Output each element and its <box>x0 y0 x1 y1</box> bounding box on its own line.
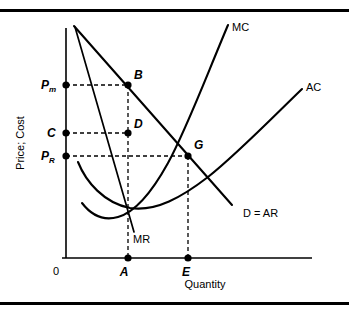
curve-label-demand: D = AR <box>243 207 278 219</box>
y-tick-label-pr: PR <box>41 149 55 165</box>
y-tick-label-c: C <box>47 126 56 140</box>
average-cost-curve <box>78 89 302 209</box>
demand-average-revenue-line <box>74 26 232 205</box>
tick-dot-pr <box>62 152 69 159</box>
y-tick-label-pm: Pm <box>41 78 56 94</box>
figure-container: B D G Pm C PR A E 0 MC AC D = AR MR Pric… <box>0 0 349 309</box>
tick-dot-c <box>62 129 69 136</box>
tick-dot-a <box>124 254 131 261</box>
x-tick-label-a: A <box>119 265 129 279</box>
point-label-d: D <box>134 117 143 131</box>
y-tick-label-c-base: C <box>47 126 56 140</box>
origin-label: 0 <box>53 265 59 277</box>
tick-dot-e <box>184 254 191 261</box>
x-axis-title: Quantity <box>185 278 226 290</box>
y-tick-label-pr-sub: R <box>49 156 55 165</box>
curve-label-mr: MR <box>133 233 150 245</box>
curve-label-ac: AC <box>306 81 321 93</box>
point-dot-b <box>124 81 131 88</box>
y-tick-label-pm-sub: m <box>49 85 56 94</box>
point-label-b: B <box>134 68 143 82</box>
economics-diagram-svg: B D G Pm C PR A E 0 MC AC D = AR MR Pric… <box>0 0 349 309</box>
tick-dot-pm <box>62 81 69 88</box>
marginal-cost-curve <box>82 25 228 218</box>
point-dot-d <box>124 129 131 136</box>
y-axis-title: Price; Cost <box>14 116 26 170</box>
curve-label-mc: MC <box>232 21 249 33</box>
point-dot-g <box>184 152 191 159</box>
marginal-revenue-line <box>75 27 134 232</box>
x-tick-label-e: E <box>182 265 191 279</box>
point-label-g: G <box>194 138 203 152</box>
